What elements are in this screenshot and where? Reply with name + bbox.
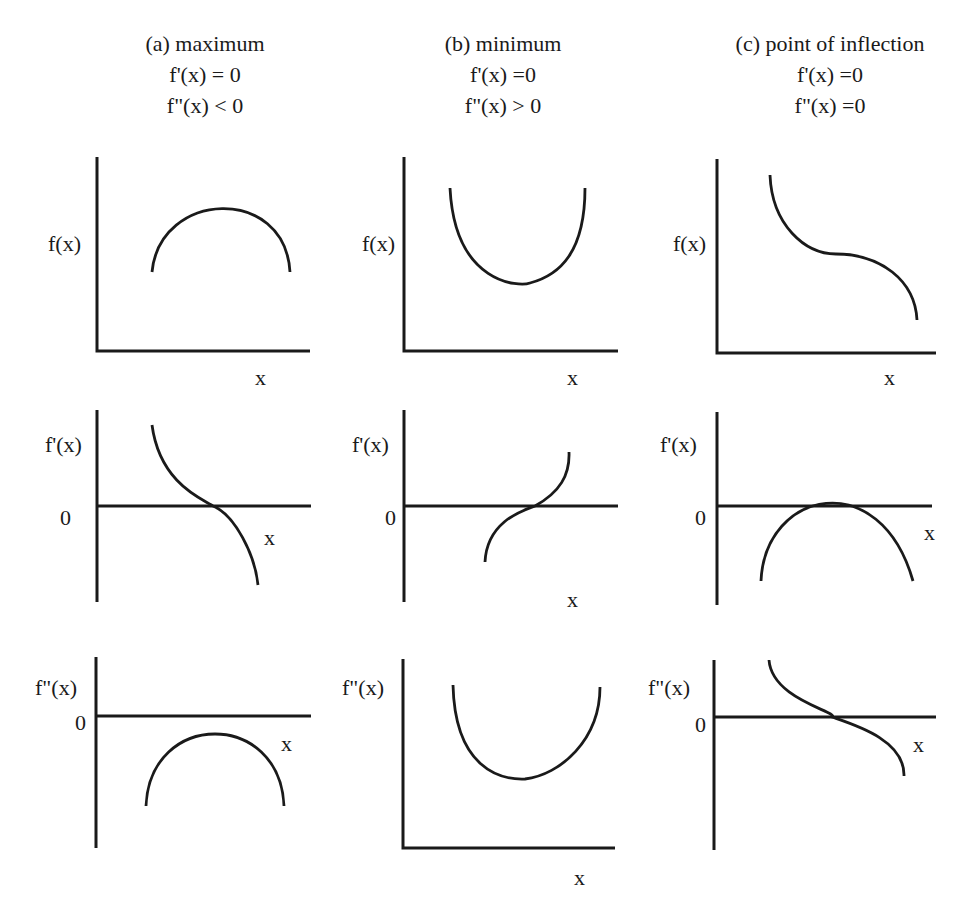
axes <box>714 660 936 850</box>
function-curve <box>770 175 917 320</box>
panel-b-f: f(x)x <box>362 157 618 390</box>
y-axis-label: f(x) <box>362 231 395 256</box>
zero-tick-label: 0 <box>385 505 396 530</box>
derivative-figure: (a) maximumf'(x) = 0f"(x) < 0(b) minimum… <box>0 0 970 921</box>
function-curve <box>761 503 913 581</box>
x-axis-label: x <box>884 365 895 390</box>
axes <box>404 410 618 602</box>
x-axis-label: x <box>567 587 578 612</box>
panel-a-f: f(x)x <box>48 157 310 390</box>
second-derivative-condition-a: f"(x) < 0 <box>167 93 243 118</box>
panel-c-fdoubleprime: f"(x)x0 <box>648 660 936 850</box>
axes <box>717 159 936 353</box>
y-axis-label: f"(x) <box>342 675 384 700</box>
panel-b-fdoubleprime: f"(x)x <box>342 659 615 890</box>
axes <box>404 157 618 351</box>
column-title-c: (c) point of inflection <box>736 31 925 56</box>
function-curve <box>450 188 585 284</box>
zero-tick-label: 0 <box>695 712 706 737</box>
zero-tick-label: 0 <box>695 505 706 530</box>
axes <box>97 157 310 351</box>
panel-b-fprime: f'(x)x0 <box>352 410 618 612</box>
column-title-a: (a) maximum <box>145 31 264 56</box>
graph-panels: f(x)xf(x)xf(x)xf'(x)x0f'(x)x0f'(x)x0f"(x… <box>35 157 936 890</box>
first-derivative-condition-a: f'(x) = 0 <box>169 62 240 87</box>
y-axis-label: f'(x) <box>45 432 82 457</box>
x-axis-label: x <box>281 731 292 756</box>
x-axis-label: x <box>913 732 924 757</box>
column-headers: (a) maximumf'(x) = 0f"(x) < 0(b) minimum… <box>145 31 924 118</box>
column-title-b: (b) minimum <box>445 31 562 56</box>
y-axis-label: f"(x) <box>35 675 77 700</box>
panel-c-f: f(x)x <box>673 159 936 390</box>
x-axis-label: x <box>567 365 578 390</box>
panel-a-fprime: f'(x)x0 <box>45 410 311 602</box>
first-derivative-condition-b: f'(x) =0 <box>470 62 536 87</box>
y-axis-label: f(x) <box>48 231 81 256</box>
y-axis-label: f(x) <box>673 231 706 256</box>
function-curve <box>152 209 290 272</box>
second-derivative-condition-c: f"(x) =0 <box>795 93 866 118</box>
function-curve <box>146 734 284 806</box>
x-axis-label: x <box>255 365 266 390</box>
axes <box>717 412 932 605</box>
x-axis-label: x <box>264 525 275 550</box>
axes <box>96 657 311 848</box>
panel-c-fprime: f'(x)x0 <box>660 412 935 605</box>
y-axis-label: f'(x) <box>660 432 697 457</box>
axes <box>403 659 615 848</box>
panel-a-fdoubleprime: f"(x)x0 <box>35 657 311 848</box>
first-derivative-condition-c: f'(x) =0 <box>797 62 863 87</box>
zero-tick-label: 0 <box>60 505 71 530</box>
y-axis-label: f'(x) <box>352 432 389 457</box>
y-axis-label: f"(x) <box>648 675 690 700</box>
function-curve <box>453 685 600 779</box>
x-axis-label: x <box>574 865 585 890</box>
axes <box>97 410 311 602</box>
zero-tick-label: 0 <box>75 710 86 735</box>
x-axis-label: x <box>924 520 935 545</box>
second-derivative-condition-b: f"(x) > 0 <box>465 93 541 118</box>
